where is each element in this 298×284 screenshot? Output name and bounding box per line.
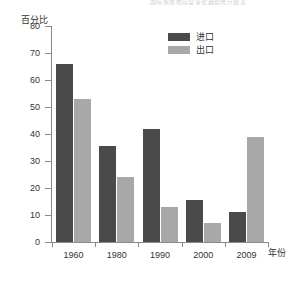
- legend-label-import: 进口: [196, 30, 214, 43]
- bar-export-1980: [117, 177, 134, 242]
- x-axis-label: 年份: [268, 246, 286, 259]
- bar-import-1990: [143, 129, 160, 242]
- y-tick-mark: [45, 80, 51, 81]
- y-tick-mark: [45, 26, 51, 27]
- legend-label-export: 出口: [196, 43, 214, 56]
- bar-import-2000: [186, 200, 203, 242]
- bar-export-2009: [247, 137, 264, 242]
- clipped-header-text: 国际贸易依存度变化趋势统计图表: [150, 0, 298, 5]
- y-tick-mark: [45, 53, 51, 54]
- x-tick-mark: [225, 243, 226, 247]
- legend-swatch-export-icon: [168, 46, 190, 54]
- x-tick-mark: [52, 243, 53, 247]
- y-tick-label: 40: [0, 129, 40, 139]
- y-tick-label: 10: [0, 210, 40, 220]
- legend-item-import: 进口: [168, 31, 238, 42]
- x-tick-label: 1980: [107, 250, 127, 260]
- y-tick-label: 20: [0, 183, 40, 193]
- x-tick-label: 2009: [236, 250, 256, 260]
- y-tick-mark: [45, 107, 51, 108]
- y-tick-label: 50: [0, 102, 40, 112]
- y-tick-mark: [45, 134, 51, 135]
- y-tick-mark: [45, 188, 51, 189]
- bar-import-1960: [56, 64, 73, 242]
- bar-import-2009: [229, 212, 246, 242]
- bar-export-2000: [204, 223, 221, 242]
- x-tick-mark: [95, 243, 96, 247]
- y-tick-label: 80: [0, 21, 40, 31]
- y-tick-label: 70: [0, 48, 40, 58]
- x-tick-mark: [182, 243, 183, 247]
- y-tick-label: 60: [0, 75, 40, 85]
- x-tick-label: 1960: [64, 250, 84, 260]
- bar-export-1990: [161, 207, 178, 242]
- x-axis-line: [51, 242, 269, 243]
- chart-legend: 进口 出口: [168, 31, 238, 57]
- y-tick-mark: [45, 242, 51, 243]
- legend-item-export: 出口: [168, 44, 238, 55]
- bar-chart: 国际贸易依存度变化趋势统计图表 百分比 年份 01020304050607080…: [0, 0, 298, 284]
- x-tick-mark: [138, 243, 139, 247]
- bar-import-1980: [99, 146, 116, 242]
- y-tick-label: 30: [0, 156, 40, 166]
- legend-swatch-import-icon: [168, 33, 190, 41]
- y-tick-mark: [45, 215, 51, 216]
- x-tick-mark: [268, 243, 269, 247]
- plot-area: [52, 26, 268, 242]
- x-tick-label: 1990: [150, 250, 170, 260]
- x-tick-label: 2000: [193, 250, 213, 260]
- y-tick-label: 0: [0, 237, 40, 247]
- y-tick-mark: [45, 161, 51, 162]
- bar-export-1960: [74, 99, 91, 242]
